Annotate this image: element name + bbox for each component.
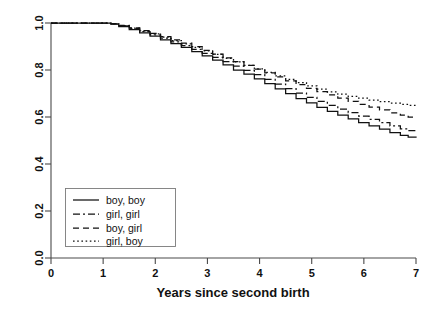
y-tick-label: 0.6	[33, 109, 45, 124]
y-tick-label: 0.4	[33, 155, 45, 171]
chart-legend: boy, boygirl, girlboy, girlgirl, boy	[66, 189, 176, 247]
legend-label: boy, girl	[106, 222, 142, 234]
x-tick-label: 1	[100, 267, 106, 279]
y-tick-label: 0.0	[33, 250, 45, 265]
survival-curve-chart: 0.00.20.40.60.81.0 01234567 boy, boygirl…	[0, 0, 434, 321]
x-tick-label: 2	[152, 267, 158, 279]
x-tick-label: 5	[309, 267, 315, 279]
legend-label: girl, girl	[106, 208, 140, 220]
x-tick-label: 3	[204, 267, 210, 279]
x-tick-label: 7	[413, 267, 419, 279]
chart-root: 0.00.20.40.60.81.0 01234567 boy, boygirl…	[0, 0, 434, 321]
survival-curve	[51, 23, 416, 132]
legend-label: boy, boy	[106, 194, 146, 206]
curve-group	[51, 23, 416, 138]
x-tick-label: 0	[48, 267, 54, 279]
survival-curve	[51, 23, 416, 138]
y-tick-label: 0.2	[33, 203, 45, 218]
y-axis-ticks: 0.00.20.40.60.81.0	[33, 15, 51, 265]
x-axis-ticks: 01234567	[48, 258, 419, 279]
y-tick-label: 0.8	[33, 62, 45, 77]
x-axis-title: Years since second birth	[156, 285, 309, 300]
x-tick-label: 6	[361, 267, 367, 279]
x-tick-label: 4	[257, 267, 264, 279]
y-tick-label: 1.0	[33, 15, 45, 30]
legend-label: girl, boy	[106, 235, 144, 247]
